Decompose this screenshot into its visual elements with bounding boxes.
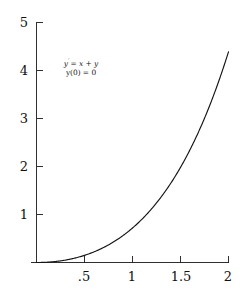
- x-tick-label-1-5: 1.5: [171, 269, 192, 284]
- y-tick-label-5: 5: [20, 15, 28, 30]
- figure-background: [0, 0, 247, 298]
- x-tick-label-1: 1: [128, 269, 136, 284]
- y-tick-label-1: 1: [20, 207, 28, 222]
- y-tick-label-3: 3: [20, 111, 28, 126]
- plot-figure: 1 2 3 4 5 .5 1 1.5 2 y′= x + y y(0) = 0: [0, 0, 247, 298]
- x-tick-label-2: 2: [224, 269, 232, 284]
- equation-line-2: y(0) = 0: [65, 68, 97, 77]
- y-tick-label-2: 2: [20, 159, 28, 174]
- plot-svg: 1 2 3 4 5 .5 1 1.5 2 y′= x + y y(0) = 0: [0, 0, 247, 298]
- x-tick-label-half: .5: [78, 269, 90, 284]
- y-tick-label-4: 4: [20, 63, 28, 78]
